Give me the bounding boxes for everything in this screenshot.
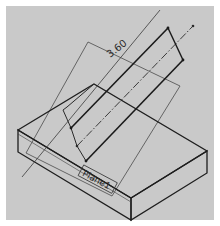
axis-endpoint: [192, 25, 195, 28]
box-top-face: [18, 84, 207, 198]
vertex-point: [85, 160, 88, 163]
vertex-point: [167, 27, 170, 30]
vertex-point: [182, 59, 185, 62]
box-edge-inner: [18, 134, 131, 202]
cad-drawing: 3.60 Plane1: [0, 0, 220, 226]
profile-edge-top: [168, 28, 183, 60]
dimension-label: 3.60: [104, 37, 128, 59]
diagram-frame: 3.60 Plane1: [0, 0, 220, 226]
box-left-face: [18, 130, 131, 220]
box-right-face: [131, 151, 207, 220]
vertex-point: [70, 127, 73, 130]
profile-edge-lower: [86, 60, 183, 161]
